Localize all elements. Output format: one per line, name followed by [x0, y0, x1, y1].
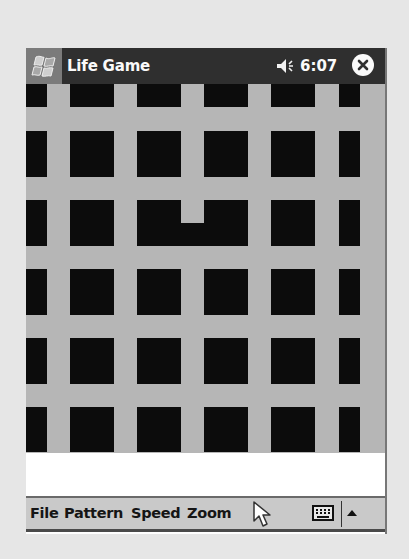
live-cell[interactable]: [204, 200, 248, 246]
live-cell[interactable]: [339, 84, 360, 107]
live-cell[interactable]: [271, 84, 315, 107]
clock[interactable]: 6:07: [300, 48, 337, 84]
app-title: Life Game: [67, 48, 150, 84]
live-cell[interactable]: [70, 131, 114, 177]
live-cell[interactable]: [70, 84, 114, 107]
live-cell[interactable]: [137, 131, 181, 177]
live-cell[interactable]: [271, 407, 315, 452]
menu-file[interactable]: File: [30, 498, 58, 529]
menu-speed[interactable]: Speed: [131, 498, 180, 529]
live-cell[interactable]: [271, 269, 315, 315]
keyboard-icon[interactable]: [312, 505, 334, 521]
live-cell[interactable]: [137, 84, 181, 107]
live-cell[interactable]: [137, 407, 181, 452]
life-grid[interactable]: [26, 84, 385, 453]
windows-flag-icon: [30, 53, 58, 79]
live-cell[interactable]: [339, 407, 360, 452]
title-bar: Life Game 6:07: [26, 48, 385, 84]
live-cell[interactable]: [137, 200, 181, 246]
close-button[interactable]: [352, 54, 374, 76]
device-screen: Life Game 6:07 File Pattern Speed Zoom: [26, 48, 387, 534]
live-cell[interactable]: [271, 338, 315, 384]
live-cell[interactable]: [70, 200, 114, 246]
live-cell[interactable]: [181, 223, 204, 246]
close-icon: [357, 59, 369, 71]
live-cell[interactable]: [70, 407, 114, 452]
live-cell[interactable]: [204, 338, 248, 384]
menu-bar: File Pattern Speed Zoom: [26, 496, 385, 532]
live-cell[interactable]: [204, 407, 248, 452]
menu-pattern[interactable]: Pattern: [64, 498, 123, 529]
live-cell[interactable]: [137, 338, 181, 384]
menu-zoom[interactable]: Zoom: [187, 498, 231, 529]
blank-area: [26, 453, 385, 496]
live-cell[interactable]: [26, 131, 47, 177]
live-cell[interactable]: [271, 200, 315, 246]
live-cell[interactable]: [137, 269, 181, 315]
live-cell[interactable]: [26, 338, 47, 384]
live-cell[interactable]: [339, 131, 360, 177]
live-cell[interactable]: [204, 269, 248, 315]
live-cell[interactable]: [271, 131, 315, 177]
live-cell[interactable]: [204, 84, 248, 107]
up-arrow-icon[interactable]: [347, 510, 357, 516]
live-cell[interactable]: [26, 84, 47, 107]
live-cell[interactable]: [26, 200, 47, 246]
menu-divider: [341, 501, 342, 527]
live-cell[interactable]: [26, 407, 47, 452]
live-cell[interactable]: [204, 131, 248, 177]
live-cell[interactable]: [70, 338, 114, 384]
live-cell[interactable]: [339, 200, 360, 246]
speaker-icon[interactable]: [276, 58, 298, 74]
live-cell[interactable]: [26, 269, 47, 315]
live-cell[interactable]: [70, 269, 114, 315]
mouse-cursor-icon: [253, 501, 275, 529]
live-cell[interactable]: [339, 269, 360, 315]
start-button[interactable]: [26, 48, 62, 84]
live-cell[interactable]: [339, 338, 360, 384]
